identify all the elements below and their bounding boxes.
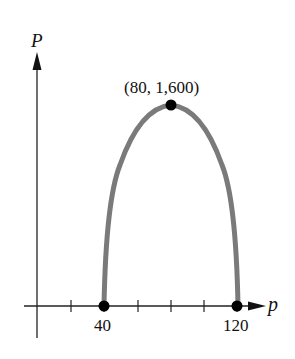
tick-label-120: 120 [223, 316, 249, 336]
vertex-point [166, 100, 177, 111]
vertex-label: (80, 1,600) [124, 78, 199, 98]
x-axis-arrow-icon [248, 302, 266, 311]
tick-label-40: 40 [94, 316, 111, 336]
chart-canvas [0, 0, 295, 359]
y-axis-arrow-icon [33, 52, 42, 70]
y-axis-label: P [31, 30, 43, 52]
root-point-120 [232, 301, 243, 312]
parabola-curve [104, 105, 238, 306]
x-axis-label: p [268, 293, 278, 316]
root-point-40 [99, 301, 110, 312]
